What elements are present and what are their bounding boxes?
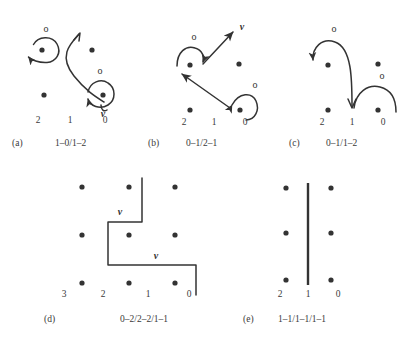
- panel-d-column-label: 1: [146, 289, 151, 299]
- panel-d-caption: 0–2/2–2/1–1: [120, 314, 168, 324]
- panel-d-dot: [172, 280, 177, 285]
- panel-d: v v 3 2 1 0 (d) 0–2/2–2/1–1: [44, 178, 196, 325]
- panel-d-dot: [79, 184, 84, 189]
- panel-c-caption: 0–1/1–2: [326, 138, 357, 148]
- panel-c-tag: (c): [289, 138, 300, 149]
- panel-e-column-label: 0: [336, 289, 341, 299]
- panel-e-dot: [283, 230, 288, 235]
- panel-c-column-label: 1: [350, 117, 355, 127]
- panel-a: o o v 2 1 0 (a) 1–0/1–2: [12, 23, 114, 149]
- panel-a-curve-arrowhead: [74, 33, 80, 41]
- panel-b-dot: [237, 107, 242, 112]
- panel-c: o o 2 1 0 (c) 0–1/1–2: [289, 23, 396, 149]
- panel-c-glyph-o-1: o: [332, 23, 337, 34]
- panel-d-dot: [126, 280, 131, 285]
- panel-e-dot: [328, 230, 333, 235]
- panel-b: o v o 2 1 0 (b) 0–1/2–1: [148, 21, 258, 149]
- panel-e-caption: 1–1/1–1/1–1: [278, 314, 326, 324]
- panel-d-glyph-v-2: v: [154, 250, 159, 261]
- panel-c-arc-right: [354, 86, 396, 112]
- panel-c-glyph-o-2: o: [380, 70, 385, 81]
- panel-b-column-label: 1: [212, 117, 217, 127]
- panel-d-dot: [172, 232, 177, 237]
- panel-c-dot: [325, 62, 330, 67]
- panel-d-dot: [126, 232, 131, 237]
- panel-b-arrow-upright: [203, 32, 233, 64]
- panel-a-caption: 1–0/1–2: [55, 138, 86, 148]
- panel-a-dot: [39, 47, 44, 52]
- panel-a-tag: (a): [12, 138, 23, 149]
- panel-c-dot: [375, 107, 380, 112]
- panel-e-dot: [328, 185, 333, 190]
- panel-e-column-label: 1: [306, 289, 311, 299]
- panel-e: 2 1 0 (e) 1–1/1–1/1–1: [243, 183, 341, 325]
- panel-e-dot: [283, 277, 288, 282]
- panel-e-tag: (e): [243, 314, 254, 325]
- panel-a-dot: [41, 92, 46, 97]
- panel-c-arc-big: [313, 41, 352, 106]
- panel-b-caption: 0–1/2–1: [186, 138, 217, 148]
- panel-d-tag: (d): [44, 314, 55, 325]
- panel-a-glyph-o-2: o: [98, 65, 103, 76]
- panel-e-dot: [283, 185, 288, 190]
- panel-b-glyph-o-1: o: [192, 31, 197, 42]
- panel-c-dot: [325, 107, 330, 112]
- figure-canvas: o o v 2 1 0 (a) 1–0/1–2 o v o 2 1 0 (b) …: [0, 0, 413, 337]
- panel-a-column-label: 1: [68, 115, 73, 125]
- panel-d-glyph-v-1: v: [118, 206, 123, 217]
- panel-b-dot: [187, 107, 192, 112]
- panel-d-dot: [79, 232, 84, 237]
- panel-d-dot: [172, 184, 177, 189]
- panel-a-glyph-o-1: o: [44, 23, 49, 34]
- panel-b-dot: [187, 62, 192, 67]
- panel-a-dot: [100, 92, 105, 97]
- panel-d-dot: [126, 184, 131, 189]
- panel-d-column-label: 3: [62, 289, 67, 299]
- panel-c-column-label: 2: [320, 117, 325, 127]
- panel-b-glyph-v-1: v: [240, 21, 245, 32]
- panel-b-column-label: 2: [182, 117, 187, 127]
- panel-b-arrow-diagonal: [182, 74, 230, 108]
- panel-e-column-label: 2: [278, 289, 283, 299]
- panel-d-column-label: 2: [101, 289, 106, 299]
- panel-a-dot: [89, 47, 94, 52]
- panel-b-tag: (b): [148, 138, 159, 149]
- panel-d-column-label: 0: [187, 289, 192, 299]
- panel-a-column-label: 0: [103, 115, 108, 125]
- panel-b-dot: [236, 61, 241, 66]
- panel-e-dot: [328, 277, 333, 282]
- panel-c-dot: [375, 61, 380, 66]
- panel-d-dot: [79, 280, 84, 285]
- panel-a-column-label: 2: [36, 115, 41, 125]
- panel-b-column-label: 0: [243, 117, 248, 127]
- panel-d-step-path: [108, 178, 196, 295]
- panel-b-glyph-o-2: o: [253, 79, 258, 90]
- panel-c-column-label: 0: [381, 117, 386, 127]
